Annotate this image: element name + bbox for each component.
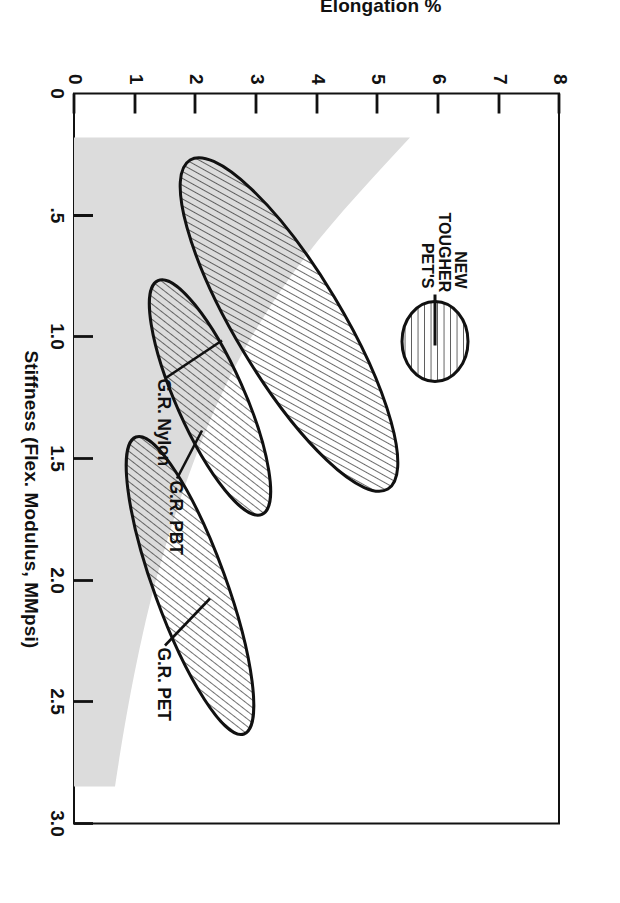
annotation-new-tougher-pets: NEW TOUGHER PET'S: [419, 212, 468, 288]
annotation-gr-pbt: G.R. PBT: [165, 480, 186, 554]
y-tick-label-3: 3: [246, 58, 268, 84]
x-tick-label-4: 2.0: [46, 560, 68, 600]
chart-figure: 0 .5 1.0 1.5 2.0 2.5 3.0 0 1 2 3 4 5 6 7…: [0, 0, 620, 903]
plot-frame: [73, 92, 560, 824]
callout-line-1: NEW: [452, 212, 468, 288]
x-axis-title: Stiffness (Flex. Modulus, MMpsi): [20, 350, 42, 648]
y-tick-label-0: 0: [64, 58, 86, 84]
x-tick-label-3: 1.5: [46, 438, 68, 478]
y-tick-label-6: 6: [428, 58, 450, 84]
x-tick-label-1: .5: [46, 195, 68, 235]
rotated-plot-stage: 0 .5 1.0 1.5 2.0 2.5 3.0 0 1 2 3 4 5 6 7…: [0, 0, 620, 903]
annotation-gr-pet: G.R. PET: [153, 647, 174, 720]
callout-line-2: TOUGHER: [435, 212, 451, 288]
y-tick-label-7: 7: [489, 58, 511, 84]
x-tick-label-5: 2.5: [46, 681, 68, 721]
y-tick-label-1: 1: [125, 58, 147, 84]
x-tick-label-2: 1.0: [46, 316, 68, 356]
y-tick-label-2: 2: [185, 58, 207, 84]
annotation-gr-nylon: G.R. Nylon: [153, 378, 174, 465]
y-axis-title: Elongation %: [320, 0, 442, 16]
x-tick-label-6: 3.0: [46, 803, 68, 843]
y-tick-label-5: 5: [367, 58, 389, 84]
y-tick-label-4: 4: [307, 58, 329, 84]
callout-line-3: PET'S: [419, 212, 435, 288]
y-tick-label-8: 8: [549, 58, 571, 84]
